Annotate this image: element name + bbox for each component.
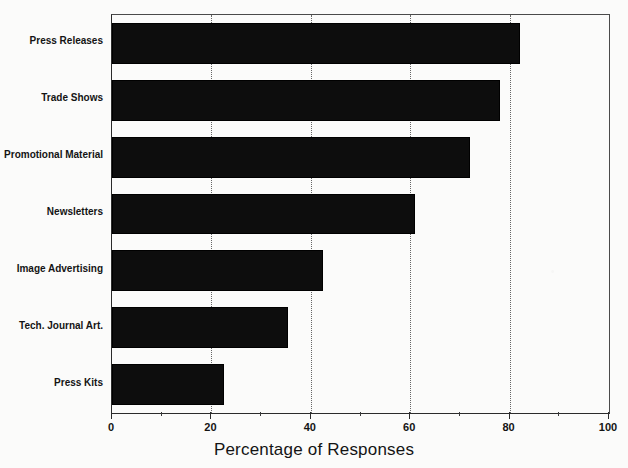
x-tick-label-60: 60 <box>403 421 415 433</box>
bar-band <box>112 80 609 121</box>
bar <box>112 80 500 121</box>
plot-area <box>111 14 610 414</box>
bar-band <box>112 137 609 178</box>
y-axis-label-2: Trade Shows <box>0 92 103 103</box>
bar <box>112 307 288 348</box>
bar <box>112 194 415 235</box>
x-tick-major-0 <box>111 412 112 419</box>
bar <box>112 23 520 64</box>
x-axis-title: Percentage of Responses <box>0 440 628 460</box>
x-tick-major-60 <box>409 412 410 419</box>
x-tick-label-100: 100 <box>599 421 617 433</box>
x-tick-major-80 <box>509 412 510 419</box>
y-axis-label-5: Image Advertising <box>0 263 103 274</box>
y-axis-label-7: Press Kits <box>0 377 103 388</box>
y-axis-label-6: Tech. Journal Art. <box>0 320 103 331</box>
y-axis-label-3: Promotional Material <box>0 149 103 160</box>
x-tick-major-20 <box>210 412 211 419</box>
bar-chart: Press ReleasesTrade ShowsPromotional Mat… <box>0 0 628 468</box>
bar-band <box>112 23 609 64</box>
x-tick-minor-90 <box>558 412 559 416</box>
y-axis-label-1: Press Releases <box>0 35 103 46</box>
bar <box>112 364 224 405</box>
x-tick-major-100 <box>608 412 609 419</box>
x-tick-label-0: 0 <box>108 421 114 433</box>
x-tick-label-80: 80 <box>502 421 514 433</box>
bar <box>112 250 323 291</box>
bar-band <box>112 194 609 235</box>
y-axis-label-4: Newsletters <box>0 206 103 217</box>
x-tick-minor-70 <box>459 412 460 416</box>
bar-band <box>112 364 609 405</box>
x-tick-label-20: 20 <box>204 421 216 433</box>
x-tick-minor-30 <box>260 412 261 416</box>
x-tick-minor-50 <box>360 412 361 416</box>
x-tick-label-40: 40 <box>304 421 316 433</box>
bar <box>112 137 470 178</box>
bar-band <box>112 307 609 348</box>
bar-band <box>112 250 609 291</box>
x-tick-minor-10 <box>161 412 162 416</box>
x-tick-major-40 <box>310 412 311 419</box>
